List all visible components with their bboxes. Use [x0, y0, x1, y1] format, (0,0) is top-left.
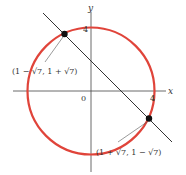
point-label-2: (1 + √7, 1 − √7): [96, 148, 161, 157]
origin-label: 0: [81, 94, 86, 103]
graph: y x 0 4 4 (1 − √7, 1 + √7) (1 + √7, 1 − …: [0, 0, 186, 175]
y-axis-label: y: [87, 3, 94, 13]
y-tick-label: 4: [83, 25, 88, 34]
intersection-point-1: [61, 31, 67, 37]
intersection-point-2: [146, 115, 152, 121]
point-label-1: (1 − √7, 1 + √7): [12, 67, 77, 76]
x-axis-label: x: [168, 86, 173, 96]
x-tick-label: 4: [150, 94, 155, 103]
